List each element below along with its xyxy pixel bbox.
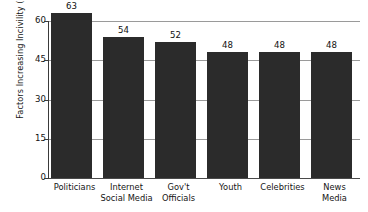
bar-series: 63 54 52 48 48 48 [48,21,360,178]
x-category-label: NewsMedia [302,182,367,203]
y-tickmark [44,178,49,179]
gridline-0 [48,178,360,179]
bar[interactable] [311,52,352,178]
bar[interactable] [155,42,196,178]
x-axis-category-labels: Politicians InternetSocial Media Gov'tOf… [48,182,360,212]
bar-value-label: 48 [311,41,352,50]
bar-value-label: 52 [155,31,196,40]
bar[interactable] [207,52,248,178]
y-tick-label: 15 [24,134,46,143]
y-tick-label: 0 [24,173,46,182]
bar-value-label: 48 [259,41,300,50]
y-tick-label: 30 [24,95,46,104]
bar-group: 52 [155,21,196,178]
bar[interactable] [103,37,144,178]
bar-value-label: 54 [103,26,144,35]
plot-area: 63 54 52 48 48 48 [48,21,360,178]
bar-group: 48 [259,21,300,178]
bar-group: 48 [311,21,352,178]
bar-group: 63 [51,21,92,178]
y-axis-tick-labels: 60 45 30 15 0 [22,0,46,212]
bar-value-label: 48 [207,41,248,50]
bar[interactable] [259,52,300,178]
bar-chart: Factors Increasing Incivility (%) 60 45 … [0,0,368,212]
bar-group: 54 [103,21,144,178]
y-tick-label: 60 [24,16,46,25]
y-tick-label: 45 [24,55,46,64]
bar-group: 48 [207,21,248,178]
bar-value-label: 63 [51,2,92,11]
bar[interactable] [51,13,92,178]
